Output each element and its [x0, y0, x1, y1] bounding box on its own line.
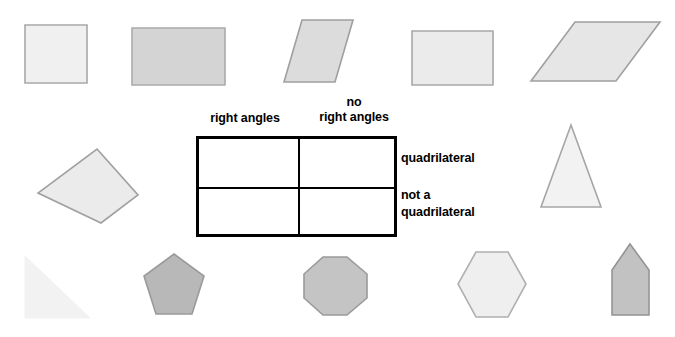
shape-rectangle-wide-gray — [131, 27, 226, 86]
shape-hexagon — [457, 251, 527, 318]
cell-quadrilateral-no-right-angles[interactable] — [300, 139, 400, 187]
shape-pentagon-regular — [143, 253, 205, 315]
column-header-no-right-angles-line1: no — [300, 95, 408, 110]
row-label-not-a-quadrilateral-line2: quadrilateral — [401, 204, 475, 221]
cell-not-quadrilateral-right-angles[interactable] — [199, 189, 298, 240]
row-label-not-a-quadrilateral-line1: not a — [401, 187, 475, 204]
shape-octagon — [303, 256, 368, 316]
column-header-no-right-angles: no right angles — [300, 95, 408, 125]
shape-triangle-right — [24, 255, 91, 319]
column-header-right-angles-line1: right angles — [193, 111, 297, 126]
shape-rectangle-light — [411, 30, 494, 86]
shape-parallelogram-wide — [530, 21, 661, 82]
sorting-table — [196, 136, 397, 237]
shape-square — [24, 24, 88, 84]
cell-not-quadrilateral-no-right-angles[interactable] — [300, 189, 400, 240]
row-label-quadrilateral-line1: quadrilateral — [401, 150, 475, 167]
cell-quadrilateral-right-angles[interactable] — [199, 139, 298, 187]
worksheet-canvas: right angles no right angles quadrilater… — [0, 0, 675, 337]
shape-triangle-isosceles — [540, 124, 602, 208]
row-label-quadrilateral: quadrilateral — [401, 150, 475, 167]
column-header-right-angles: right angles — [193, 111, 297, 126]
table-horizontal-divider — [199, 187, 394, 189]
column-header-no-right-angles-line2: right angles — [300, 110, 408, 125]
shape-pentagon-house — [611, 243, 650, 316]
shape-quadrilateral-irregular — [37, 148, 139, 224]
row-label-not-a-quadrilateral: not a quadrilateral — [401, 187, 475, 221]
shape-parallelogram-tall — [283, 19, 354, 83]
